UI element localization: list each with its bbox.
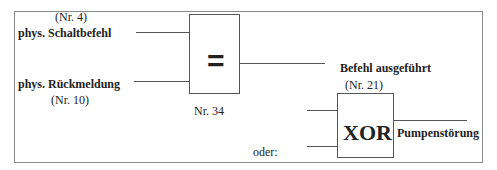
output-label: Befehl ausgeführt — [340, 62, 431, 74]
xor-symbol: XOR — [343, 122, 392, 144]
rueckmeldung-number: (Nr. 10) — [51, 94, 89, 106]
rueckmeldung-connector — [134, 81, 189, 82]
xor-output-label: Pumpenstörung — [397, 127, 479, 139]
schaltbefehl-connector — [136, 32, 189, 33]
xor-prefix: oder: — [253, 146, 278, 158]
xor-input-2-connector — [307, 146, 337, 147]
schaltbefehl-number: (Nr. 4) — [55, 11, 87, 23]
rueckmeldung-label: phys. Rückmeldung — [18, 78, 120, 90]
xor-input-1-connector — [307, 110, 337, 111]
output-number: (Nr. 21) — [345, 79, 383, 91]
xor-output-connector — [394, 120, 467, 121]
schaltbefehl-label: phys. Schaltbefehl — [18, 27, 111, 39]
equality-output-connector — [240, 63, 325, 64]
equality-gate-number: Nr. 34 — [194, 105, 224, 117]
equality-symbol: = — [207, 46, 225, 76]
